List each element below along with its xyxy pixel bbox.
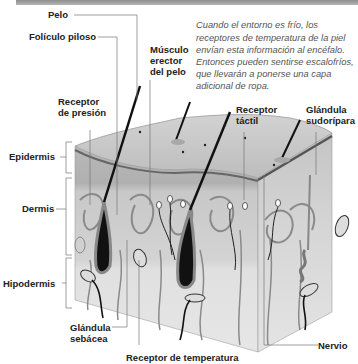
leader-pelo xyxy=(74,15,137,100)
caption-text: Cuando el entorno es frío, los receptore… xyxy=(196,19,356,92)
label-dermis: Dermis xyxy=(22,203,54,214)
label-receptor-temperatura: Receptor de temperatura xyxy=(126,352,238,363)
label-glandula-sudoripara: Glándula sudorípara xyxy=(306,104,355,126)
label-receptor-tactil: Receptor táctil xyxy=(236,104,277,126)
label-foliculo-piloso: Folículo piloso xyxy=(29,31,96,42)
label-receptor-presion: Receptor de presión xyxy=(58,96,106,118)
label-hipodermis: Hipodermis xyxy=(3,278,55,289)
label-nervio: Nervio xyxy=(318,340,348,351)
label-glandula-sebacea: Glándula sebácea xyxy=(70,322,111,344)
bracket-dermis xyxy=(56,178,72,255)
label-pelo: Pelo xyxy=(48,9,68,20)
bracket-hipodermis xyxy=(62,258,72,308)
label-musculo-erector: Músculo erector del pelo xyxy=(150,44,189,77)
bracket-epidermis xyxy=(60,142,72,173)
label-epidermis: Epidermis xyxy=(9,151,55,162)
